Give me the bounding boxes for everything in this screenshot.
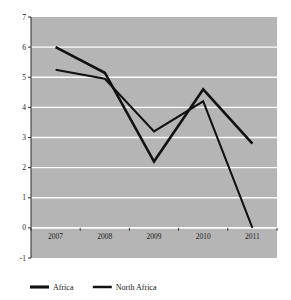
y-axis-tick-label: 5	[22, 73, 26, 82]
y-axis-tick-label: 0	[22, 223, 26, 232]
y-axis-tick-label: 7	[22, 13, 26, 22]
y-axis-tick-label: 3	[22, 133, 26, 142]
line-chart-figure: -101234567 20072008200920102011 AfricaNo…	[0, 0, 291, 300]
y-axis-tick-label: 1	[22, 193, 26, 202]
x-axis-tick-label: 2007	[48, 232, 63, 241]
x-axis-tick-label: 2011	[245, 232, 260, 241]
y-axis-tick-label: 2	[22, 163, 26, 172]
legend-label-north-africa: North Africa	[116, 283, 157, 292]
y-axis-tick-label: 4	[22, 103, 26, 112]
y-axis-tick-label: -1	[20, 254, 26, 263]
x-axis-tick-label: 2009	[147, 232, 162, 241]
chart-canvas: -101234567 20072008200920102011 AfricaNo…	[0, 0, 291, 300]
x-axis-tick-label: 2008	[97, 232, 112, 241]
legend-label-africa: Africa	[53, 283, 74, 292]
x-axis-tick-label: 2010	[196, 232, 211, 241]
y-axis-tick-label: 6	[22, 43, 26, 52]
